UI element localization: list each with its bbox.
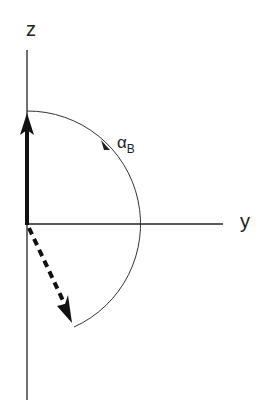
angle-subscript: B [127, 142, 135, 156]
z-axis-label: z [26, 18, 36, 40]
rotation-diagram: z y αB [0, 0, 265, 415]
angle-symbol: α [117, 133, 127, 152]
rotated-vector [29, 228, 66, 307]
angle-label: αB [117, 133, 135, 156]
rotated-vector-arrowhead-icon [57, 295, 72, 323]
y-axis-label: y [240, 210, 250, 232]
